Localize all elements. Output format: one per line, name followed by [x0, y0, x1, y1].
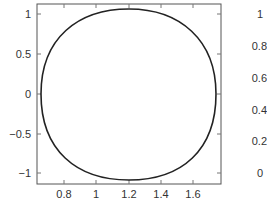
y-tick-label: 1	[25, 8, 31, 20]
second-y-tick-label: 0	[257, 167, 263, 179]
y-ticks	[37, 14, 221, 173]
y-tick-label: 0	[25, 88, 31, 100]
closed-curve	[41, 9, 216, 180]
second-y-tick-label: 0.6	[252, 72, 267, 84]
x-tick-label: 1.2	[121, 188, 136, 200]
x-ticks	[64, 4, 193, 184]
second-y-tick-label: 0.2	[252, 135, 267, 147]
x-tick-label: 1.6	[185, 188, 200, 200]
y-tick-label: −1	[18, 167, 31, 179]
y-tick-label: 0.5	[16, 48, 31, 60]
y-tick-label: −0.5	[9, 128, 31, 140]
plot-canvas: 1 0.5 0 −0.5 −1 0.8 1 1.2 1.4 1.6 1 0.8 …	[0, 0, 267, 206]
second-y-tick-label: 0.8	[252, 40, 267, 52]
x-tick-label: 0.8	[56, 188, 71, 200]
x-tick-label: 1	[93, 188, 99, 200]
second-y-tick-label: 1	[257, 8, 263, 20]
x-tick-label: 1.4	[153, 188, 168, 200]
second-y-tick-label: 0.4	[252, 104, 267, 116]
